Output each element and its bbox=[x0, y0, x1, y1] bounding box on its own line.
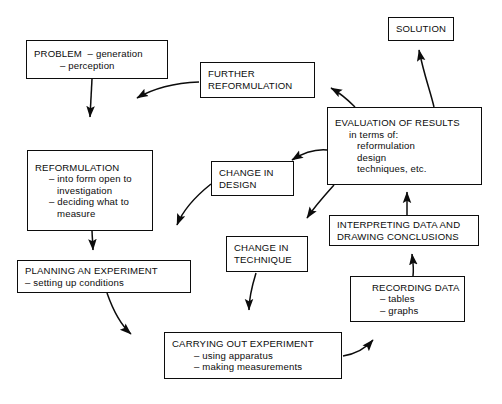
node-evaluation-line-3: reformulation bbox=[335, 140, 481, 152]
node-reformulation-line-1: REFORMULATION bbox=[35, 162, 152, 174]
edge-evaluation-to-change-in-design bbox=[292, 150, 327, 160]
node-change-in-technique-line-1: CHANGE IN bbox=[234, 242, 307, 254]
node-carrying-out-experiment[interactable]: CARRYING OUT EXPERIMENT – using apparatu… bbox=[164, 332, 342, 379]
node-solution-line-1: SOLUTION bbox=[396, 23, 446, 35]
node-planning-an-experiment[interactable]: PLANNING AN EXPERIMENT – setting up cond… bbox=[17, 260, 191, 293]
edge-carrying-out-to-recording bbox=[343, 340, 373, 356]
node-solution[interactable]: SOLUTION bbox=[388, 17, 454, 41]
edge-further-reformulation-to-reformulation bbox=[137, 82, 199, 98]
edge-reformulation-to-planning bbox=[92, 231, 93, 250]
edge-recording-to-interpreting bbox=[412, 254, 413, 276]
node-evaluation-line-2: in terms of: bbox=[335, 129, 481, 141]
node-carrying-out-line-3: – making measurements bbox=[172, 361, 341, 373]
node-planning-line-1: PLANNING AN EXPERIMENT bbox=[25, 265, 190, 277]
node-change-in-design[interactable]: CHANGE IN DESIGN bbox=[211, 161, 294, 196]
node-problem[interactable]: PROBLEM – generation – perception bbox=[26, 40, 168, 79]
edge-evaluation-to-further-reformulation bbox=[331, 88, 355, 107]
node-problem-line-1: PROBLEM – generation bbox=[34, 48, 167, 60]
node-reformulation-line-5: measure bbox=[35, 208, 152, 220]
node-interpreting-data[interactable]: INTERPRETING DATA AND DRAWING CONCLUSION… bbox=[329, 215, 479, 246]
edge-evaluation-to-change-in-technique bbox=[307, 185, 334, 218]
node-recording-line-2: – tables bbox=[358, 293, 464, 305]
node-change-in-technique[interactable]: CHANGE IN TECHNIQUE bbox=[226, 236, 308, 272]
node-further-reformulation-line-1: FURTHER bbox=[208, 68, 314, 80]
node-recording-line-1: RECORDING DATA bbox=[358, 282, 464, 294]
edge-problem-to-reformulation bbox=[90, 79, 92, 117]
edge-change-in-technique-to-carrying-out bbox=[249, 273, 256, 310]
node-change-in-technique-line-2: TECHNIQUE bbox=[234, 254, 307, 266]
node-reformulation-line-4: – deciding what to bbox=[35, 196, 152, 208]
node-change-in-design-line-2: DESIGN bbox=[219, 179, 293, 191]
node-interpreting-line-1: INTERPRETING DATA AND bbox=[337, 219, 478, 231]
node-change-in-design-line-1: CHANGE IN bbox=[219, 167, 293, 179]
node-carrying-out-line-2: – using apparatus bbox=[172, 350, 341, 362]
edge-planning-to-carrying-out bbox=[107, 293, 131, 334]
node-planning-line-2: – setting up conditions bbox=[25, 277, 190, 289]
node-recording-line-3: – graphs bbox=[358, 305, 464, 317]
node-recording-data[interactable]: RECORDING DATA – tables – graphs bbox=[350, 276, 465, 322]
node-reformulation[interactable]: REFORMULATION – into form open to invest… bbox=[27, 150, 153, 231]
node-evaluation-line-4: design bbox=[335, 152, 481, 164]
node-evaluation-line-1: EVALUATION OF RESULTS bbox=[335, 117, 481, 129]
node-evaluation-of-results[interactable]: EVALUATION OF RESULTS in terms of: refor… bbox=[327, 107, 482, 185]
node-further-reformulation[interactable]: FURTHER REFORMULATION bbox=[200, 62, 315, 98]
node-carrying-out-line-1: CARRYING OUT EXPERIMENT bbox=[172, 338, 341, 350]
node-reformulation-line-3: investigation bbox=[35, 185, 152, 197]
node-interpreting-line-2: DRAWING CONCLUSIONS bbox=[337, 231, 478, 243]
node-reformulation-line-2: – into form open to bbox=[35, 173, 152, 185]
node-evaluation-line-5: techniques, etc. bbox=[335, 163, 481, 175]
edge-evaluation-to-solution bbox=[419, 50, 434, 107]
edge-change-in-design-to-planning bbox=[177, 184, 211, 225]
node-further-reformulation-line-2: REFORMULATION bbox=[208, 80, 314, 92]
node-problem-line-2: – perception bbox=[34, 60, 167, 72]
diagram-canvas: PROBLEM – generation – perception REFORM… bbox=[0, 0, 502, 404]
